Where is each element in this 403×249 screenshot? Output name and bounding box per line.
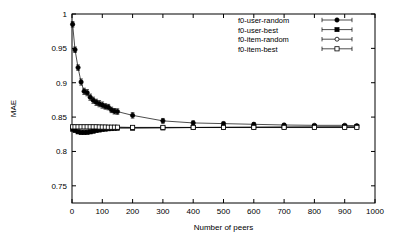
data-point-open-square <box>115 125 119 129</box>
data-point-open-square <box>252 125 256 129</box>
y-axis-title: MAE <box>9 100 18 117</box>
x-tick-label: 600 <box>247 207 261 216</box>
legend-label-f0-item-best: f0-item-best <box>238 45 279 54</box>
x-tick-label: 100 <box>96 207 110 216</box>
x-tick-label: 900 <box>338 207 352 216</box>
data-point-open-square <box>131 125 135 129</box>
mae-vs-peers-line-chart: 01002003004005006007008009001000 0.750.8… <box>0 0 403 249</box>
data-point-filled-circle <box>73 48 77 52</box>
legend-label-f0-user-random: f0-user-random <box>238 16 289 25</box>
x-tick-label: 1000 <box>366 207 384 216</box>
x-tick-label: 500 <box>217 207 231 216</box>
x-axis-title: Number of peers <box>194 223 254 232</box>
data-point-filled-circle <box>76 65 80 69</box>
data-point-filled-circle <box>115 109 119 113</box>
legend-label-f0-user-best: f0-user-best <box>238 26 279 35</box>
x-tick-label: 200 <box>126 207 140 216</box>
data-point-filled-circle <box>85 90 89 94</box>
data-point-open-circle <box>335 37 339 41</box>
data-point-filled-circle <box>70 22 74 26</box>
y-tick-label: 1 <box>63 10 68 19</box>
data-point-open-square <box>312 125 316 129</box>
data-point-open-square <box>221 125 225 129</box>
y-tick-label: 0.95 <box>51 44 67 53</box>
y-tick-label: 0.9 <box>56 79 68 88</box>
chart-container: 01002003004005006007008009001000 0.750.8… <box>0 0 403 249</box>
data-point-open-square <box>335 47 339 51</box>
y-tick-label: 0.8 <box>56 147 68 156</box>
data-point-filled-circle <box>335 18 339 22</box>
data-point-filled-circle <box>191 121 195 125</box>
data-point-open-square <box>343 125 347 129</box>
y-tick-label: 0.85 <box>51 113 67 122</box>
data-point-open-square <box>282 125 286 129</box>
x-tick-label: 0 <box>70 207 75 216</box>
x-tick-label: 400 <box>187 207 201 216</box>
x-tick-label: 800 <box>308 207 322 216</box>
data-point-filled-circle <box>130 113 134 117</box>
data-point-open-square <box>355 125 359 129</box>
data-point-filled-circle <box>161 119 165 123</box>
data-point-filled-circle <box>79 80 83 84</box>
x-tick-label: 700 <box>277 207 291 216</box>
x-tick-label: 300 <box>156 207 170 216</box>
y-tick-label: 0.75 <box>51 182 67 191</box>
data-point-open-square <box>161 125 165 129</box>
data-point-open-square <box>191 125 195 129</box>
legend-label-f0-item-random: f0-item-random <box>238 35 289 44</box>
data-point-filled-square <box>335 28 339 32</box>
